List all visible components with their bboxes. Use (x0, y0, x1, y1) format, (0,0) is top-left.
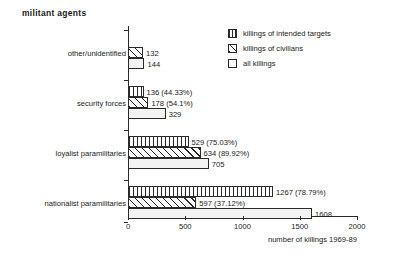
legend-item-intended-targets: killings of intended targets (228, 27, 394, 40)
legend-item-civilians: killings of civilians (228, 42, 394, 55)
bar-value-label: 634 (89.92%) (204, 148, 250, 157)
bar (128, 86, 144, 97)
legend-label: killings of civilians (243, 44, 303, 53)
legend-swatch-vertical-hatch-icon (228, 29, 237, 38)
chart-title: militant agents (22, 8, 86, 18)
x-axis-tick-label: 1500 (291, 222, 308, 231)
bar-value-label: 529 (75.03%) (192, 137, 238, 146)
chart-legend: killings of intended targets killings of… (228, 27, 394, 72)
legend-label: all killings (243, 59, 276, 68)
bar (128, 186, 273, 197)
bar-value-label: 178 (54.1%) (151, 98, 192, 107)
y-axis-category-label: nationalist paramilitaries (45, 198, 126, 207)
bar (128, 58, 144, 69)
bar (128, 147, 201, 158)
x-axis-tick-label: 500 (179, 222, 192, 231)
legend-item-all-killings: all killings (228, 57, 394, 70)
x-axis-tick (185, 216, 186, 220)
x-axis-tick (300, 216, 301, 220)
bar-value-label: 144 (147, 59, 160, 68)
bar (128, 208, 312, 219)
x-axis-tick (128, 216, 129, 220)
y-axis-tick (124, 80, 128, 81)
bar-value-label: 132 (146, 48, 159, 57)
bar-value-label: 136 (44.33%) (147, 87, 193, 96)
x-axis-tick-label: 1000 (234, 222, 251, 231)
bar (128, 47, 143, 58)
x-axis-tick (243, 216, 244, 220)
y-axis-category-label: loyalist paramilitaries (56, 148, 126, 157)
bar (128, 136, 189, 147)
x-axis-tick-label: 2000 (349, 222, 366, 231)
bar-value-label: 329 (169, 109, 182, 118)
x-axis-tick (357, 216, 358, 220)
y-axis-tick (124, 222, 128, 223)
bar-value-label: 705 (212, 159, 225, 168)
legend-swatch-empty-icon (228, 59, 237, 68)
y-axis-category-label: other/unidentified (68, 48, 126, 57)
x-axis-tick-label: 0 (126, 222, 130, 231)
x-axis-label: number of killings 1969-89 (268, 235, 357, 244)
bar-value-label: 597 (37.12%) (199, 198, 245, 207)
bar (128, 97, 148, 108)
bar (128, 108, 166, 119)
y-axis-tick (124, 130, 128, 131)
y-axis-tick (124, 180, 128, 181)
legend-swatch-diagonal-hatch-icon (228, 44, 237, 53)
bar (128, 197, 196, 208)
bar-value-label: 1608 (315, 209, 332, 218)
y-axis-category-label: security forces (77, 98, 126, 107)
bar-chart: militant agents killings of intended tar… (0, 0, 396, 260)
legend-label: killings of intended targets (243, 29, 331, 38)
bar-value-label: 1267 (78.79%) (276, 187, 326, 196)
y-axis-tick (124, 30, 128, 31)
bar (128, 158, 209, 169)
